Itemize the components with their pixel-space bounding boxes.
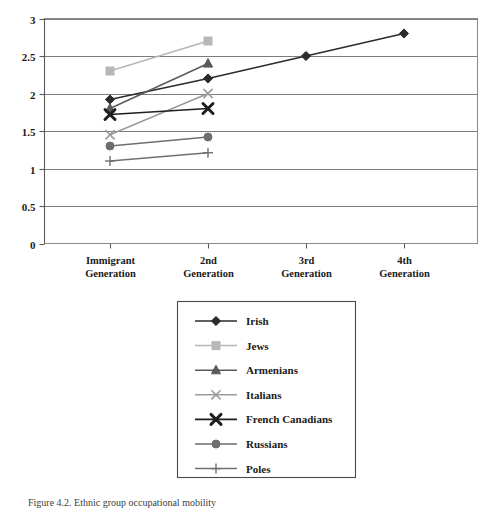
y-tick-label: 1 <box>30 164 36 176</box>
x-tick-label: 2ndGeneration <box>183 255 234 279</box>
series-armenians <box>105 59 212 113</box>
series-irish <box>105 29 408 104</box>
data-point-marker <box>203 89 212 98</box>
legend-label: Russians <box>246 438 288 450</box>
series-line <box>110 34 404 100</box>
y-axis-ticks <box>40 20 45 245</box>
x-axis-ticks <box>111 244 405 249</box>
series-poles <box>105 148 213 166</box>
data-point-marker <box>106 67 114 75</box>
legend-label: Armenians <box>246 364 299 376</box>
data-point-marker <box>203 74 212 83</box>
figure-caption: Figure 4.2. Ethnic group occupational mo… <box>28 497 216 508</box>
data-point-marker <box>204 133 212 141</box>
series-line <box>110 64 208 109</box>
data-point-marker <box>301 51 310 60</box>
legend-label: Irish <box>246 315 269 327</box>
legend-label: Italians <box>246 389 282 401</box>
data-point-marker <box>212 440 220 448</box>
series-russians <box>106 133 212 150</box>
data-point-marker <box>105 156 115 166</box>
y-tick-label: 0 <box>30 239 36 251</box>
line-chart: 00.511.522.53 ImmigrantGeneration2ndGene… <box>0 0 493 509</box>
x-tick-label: 4thGeneration <box>379 255 430 279</box>
series-line <box>110 153 208 161</box>
y-axis-tick-labels: 00.511.522.53 <box>22 14 36 251</box>
series-layer <box>105 29 409 166</box>
series-french-canadians <box>105 104 213 120</box>
data-point-marker <box>204 37 212 45</box>
x-tick-label: ImmigrantGeneration <box>85 255 136 279</box>
y-tick-label: 1.5 <box>22 126 36 138</box>
y-tick-label: 3 <box>30 14 36 26</box>
data-point-marker <box>106 142 114 150</box>
series-line <box>110 137 208 146</box>
x-axis-tick-labels: ImmigrantGeneration2ndGeneration3rdGener… <box>85 255 430 279</box>
x-tick-label: 3rdGeneration <box>281 255 332 279</box>
data-point-marker <box>203 59 212 68</box>
y-tick-label: 2.5 <box>22 51 36 63</box>
y-tick-label: 0.5 <box>22 201 36 213</box>
legend-label: French Canadians <box>246 413 333 425</box>
legend-label: Poles <box>246 463 271 475</box>
data-point-marker <box>212 342 220 350</box>
y-tick-label: 2 <box>30 89 36 101</box>
data-point-marker <box>203 148 213 158</box>
figure-container: 00.511.522.53 ImmigrantGeneration2ndGene… <box>0 0 493 509</box>
legend-label: Jews <box>246 340 269 352</box>
data-point-marker <box>399 29 408 38</box>
